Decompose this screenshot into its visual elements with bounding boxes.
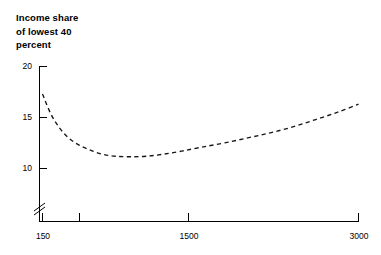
chart-figure: Income share of lowest 40 percent 20 15 (0, 0, 381, 255)
x-tick-label-3000: 3000 (339, 231, 379, 241)
x-tick-label-150: 150 (23, 231, 63, 241)
plot-area (0, 0, 381, 255)
y-tick-label-20: 20 (10, 61, 32, 71)
data-series-line (43, 94, 359, 157)
x-tick-label-1500: 1500 (169, 231, 209, 241)
y-tick-label-15: 15 (10, 112, 32, 122)
x-axis-ticks (43, 213, 359, 222)
y-tick-label-10: 10 (10, 163, 32, 173)
y-axis-ticks (40, 67, 48, 169)
